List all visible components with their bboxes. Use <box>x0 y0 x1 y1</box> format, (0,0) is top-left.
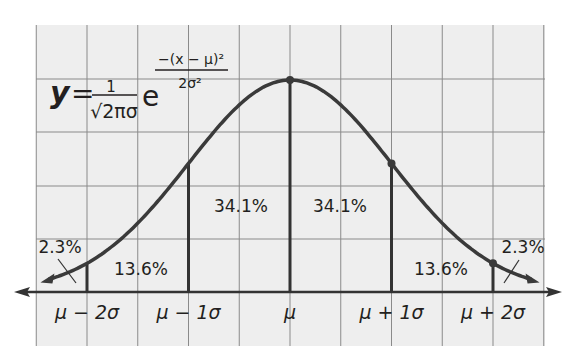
normal-distribution-chart: 2.3%13.6%34.1%34.1%13.6%2.3% μ − 2σμ − 1… <box>0 0 572 357</box>
region-label: 2.3% <box>501 237 544 257</box>
formula-numerator: 1 <box>106 78 116 96</box>
curve-point <box>388 159 396 167</box>
region-label: 13.6% <box>414 259 468 279</box>
region-label: 13.6% <box>114 259 168 279</box>
region-label: 34.1% <box>313 196 367 216</box>
x-tick-label: μ <box>283 301 296 323</box>
x-tick-label: μ + 2σ <box>460 301 526 323</box>
formula-exp-numerator: −(x − μ)² <box>158 51 224 67</box>
region-label: 34.1% <box>214 196 268 216</box>
formula-exp-denominator: 2σ² <box>178 75 201 91</box>
curve-point <box>489 259 497 267</box>
formula-denominator: √2πσ <box>90 100 138 122</box>
region-label: 2.3% <box>38 237 81 257</box>
formula-y: y <box>50 75 71 110</box>
curve-point <box>286 76 294 84</box>
formula-base: e <box>142 80 159 113</box>
x-tick-label: μ + 1σ <box>358 301 424 323</box>
x-tick-label: μ − 2σ <box>54 301 120 323</box>
x-tick-label: μ − 1σ <box>155 301 221 323</box>
